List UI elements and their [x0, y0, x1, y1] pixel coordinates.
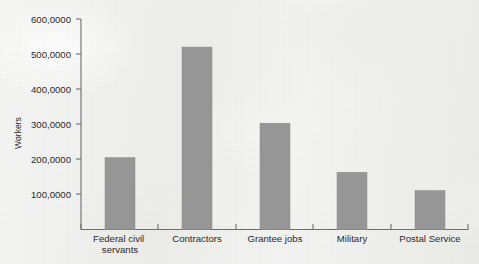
x-category-label-federal-civil-servants: Federal civil servants — [93, 233, 147, 255]
bar-postal-service[interactable] — [415, 191, 445, 230]
bar-grantee-jobs[interactable] — [260, 123, 290, 229]
bar-military[interactable] — [337, 172, 367, 229]
x-category-label-grantee-jobs: Grantee jobs — [248, 233, 303, 244]
x-category-line: servants — [102, 244, 138, 255]
y-axis-title: Workers — [13, 117, 23, 149]
bar-contractors[interactable] — [182, 47, 212, 229]
y-tick-label-300000: 300,0000 — [31, 119, 71, 130]
y-tick-label-100000: 100,0000 — [31, 189, 71, 200]
x-category-line: Federal civil — [93, 233, 144, 244]
x-category-label-contractors: Contractors — [172, 233, 222, 244]
bar-chart: Workers 600,0000 500,0000 400,0000 300,0… — [0, 0, 479, 264]
x-category-label-military: Military — [337, 233, 368, 244]
y-tick-label-200000: 200,0000 — [31, 154, 71, 165]
y-tick-label-600000: 600,0000 — [31, 14, 71, 25]
y-tick-label-500000: 500,0000 — [31, 49, 71, 60]
bar-federal-civil-servants[interactable] — [105, 158, 135, 230]
chart-canvas: Workers 600,0000 500,0000 400,0000 300,0… — [0, 0, 479, 264]
x-category-label-postal-service: Postal Service — [399, 233, 460, 244]
y-tick-label-400000: 400,0000 — [31, 84, 71, 95]
